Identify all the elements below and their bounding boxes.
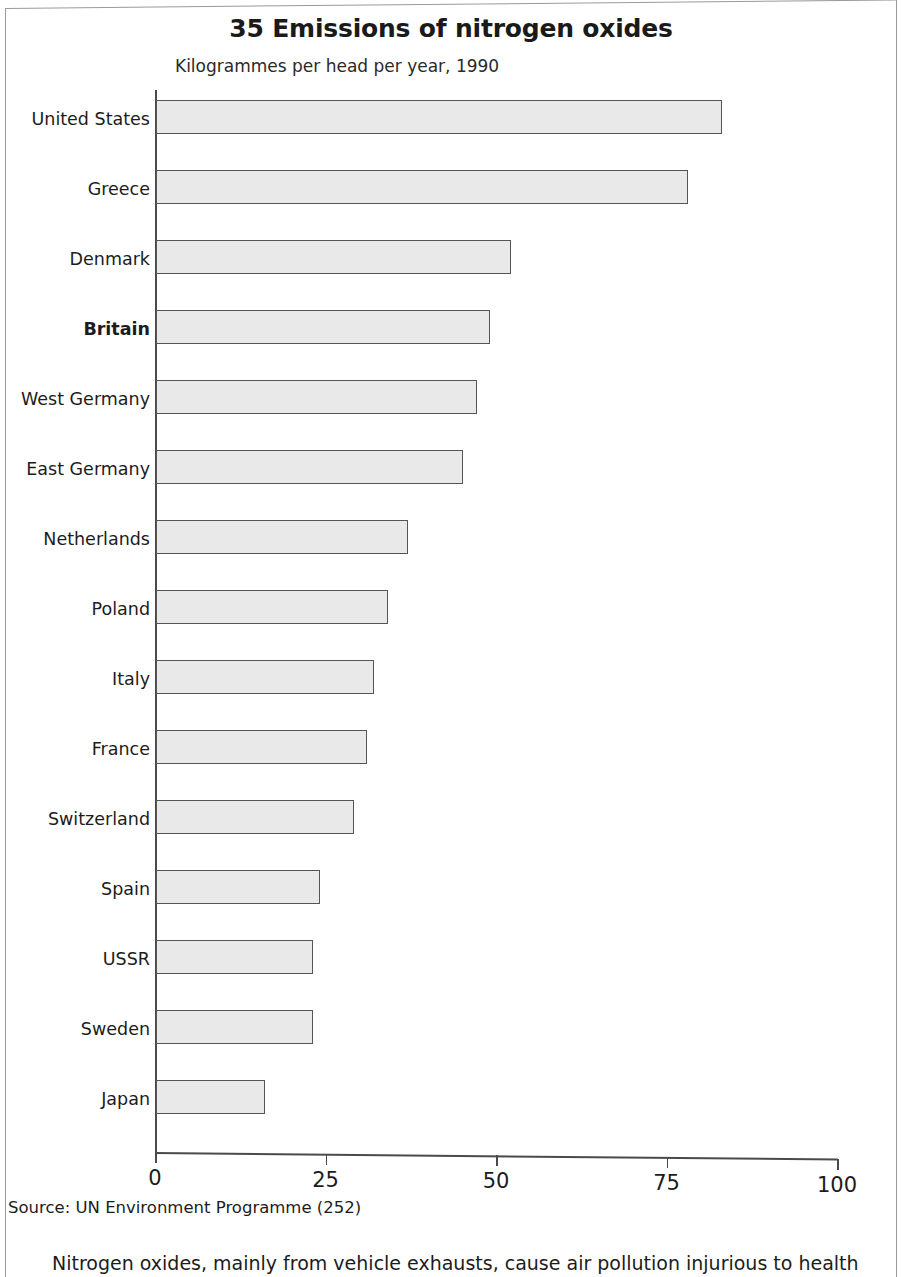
bar-category-label: Sweden — [0, 1019, 158, 1039]
bar-category-label: Denmark — [0, 249, 158, 269]
bar-category-label: Britain — [0, 319, 158, 339]
bar-row: Greece — [0, 170, 902, 240]
bar-row: Japan — [0, 1080, 902, 1150]
bar — [156, 590, 388, 624]
bar — [156, 170, 688, 204]
x-axis-tick-label: 0 — [148, 1166, 161, 1190]
plot-area: United StatesGreeceDenmarkBritainWest Ge… — [0, 90, 902, 1150]
bar-category-label: Netherlands — [0, 529, 158, 549]
x-axis-tick-label: 100 — [817, 1173, 857, 1197]
bar-row: Britain — [0, 310, 902, 380]
bar — [156, 520, 408, 554]
x-axis-tick — [837, 1159, 839, 1170]
bar — [156, 870, 320, 904]
chart-subtitle: Kilogrammes per head per year, 1990 — [175, 56, 499, 76]
bar — [156, 100, 722, 134]
bar-row: Switzerland — [0, 800, 902, 870]
bar-row: West Germany — [0, 380, 902, 450]
bar-chart: 35 Emissions of nitrogen oxides Kilogram… — [0, 0, 902, 1277]
bar-row: Sweden — [0, 1010, 902, 1080]
x-axis-tick-label: 25 — [312, 1168, 339, 1192]
x-axis-tick — [326, 1154, 328, 1165]
bar — [156, 310, 490, 344]
bar-category-label: Japan — [0, 1089, 158, 1109]
bar — [156, 1010, 313, 1044]
bar-row: Netherlands — [0, 520, 902, 590]
x-axis-tick — [155, 1152, 157, 1163]
bar — [156, 730, 367, 764]
bar — [156, 940, 313, 974]
bar-row: Poland — [0, 590, 902, 660]
bar-row: Italy — [0, 660, 902, 730]
bar — [156, 450, 463, 484]
bar-category-label: Greece — [0, 179, 158, 199]
bar — [156, 380, 477, 414]
bar — [156, 240, 511, 274]
source-note: Source: UN Environment Programme (252) — [8, 1198, 361, 1217]
bar-category-label: United States — [0, 109, 158, 129]
x-axis-tick-label: 50 — [483, 1169, 510, 1193]
x-axis-tick — [496, 1155, 498, 1166]
chart-title: 35 Emissions of nitrogen oxides — [0, 14, 902, 43]
x-axis-tick-label: 75 — [653, 1171, 680, 1195]
bar-category-label: Switzerland — [0, 809, 158, 829]
bar-category-label: Spain — [0, 879, 158, 899]
bar-category-label: France — [0, 739, 158, 759]
x-axis-tick — [667, 1157, 669, 1168]
body-paragraph: Nitrogen oxides, mainly from vehicle exh… — [52, 1252, 902, 1277]
bar-category-label: Poland — [0, 599, 158, 619]
bar-row: Denmark — [0, 240, 902, 310]
bar — [156, 1080, 265, 1114]
bar-category-label: East Germany — [0, 459, 158, 479]
bar-row: East Germany — [0, 450, 902, 520]
bar-row: Spain — [0, 870, 902, 940]
bar-row: France — [0, 730, 902, 800]
bar-row: United States — [0, 100, 902, 170]
bar-row: USSR — [0, 940, 902, 1010]
bar-category-label: West Germany — [0, 389, 158, 409]
bar-category-label: Italy — [0, 669, 158, 689]
bar — [156, 660, 374, 694]
bar — [156, 800, 354, 834]
bar-category-label: USSR — [0, 949, 158, 969]
